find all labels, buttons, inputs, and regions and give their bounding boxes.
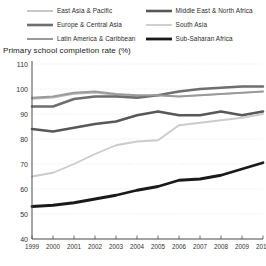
legend-label: East Asia & Pacific [57,8,112,14]
x-axis-tick-label: 2009 [235,243,249,250]
line-swatch-icon [27,35,53,43]
legend-label: South Asia [176,22,208,28]
x-axis-tick-label: 2001 [67,243,81,250]
x-axis-tick-label: 1999 [25,243,39,250]
legend-item-europe-central-asia[interactable]: Europe & Central Asia [0,18,136,32]
x-axis-tick-labels: 1999200020012002200320042005200620072008… [0,58,266,258]
legend-label: Europe & Central Asia [57,22,122,28]
legend-label: Latin America & Caribbean [57,36,136,42]
line-swatch-icon [27,7,53,15]
x-axis-tick-label: 2004 [130,243,144,250]
legend-item-middle-east-north-africa[interactable]: Middle East & North Africa [136,4,266,18]
x-axis-tick-label: 2007 [193,243,207,250]
x-axis-tick-label: 2010 [256,243,266,250]
legend-label: Sub-Saharan Africa [176,36,233,42]
line-swatch-icon [146,35,172,43]
legend-item-latin-america-caribbean[interactable]: Latin America & Caribbean [0,32,136,46]
x-axis-tick-label: 2002 [88,243,102,250]
line-chart: East Asia & Pacific Middle East & North … [0,0,266,266]
legend-item-south-asia[interactable]: South Asia [136,18,266,32]
line-swatch-icon [146,21,172,29]
x-axis-tick-label: 2006 [172,243,186,250]
legend-label: Middle East & North Africa [176,8,253,14]
x-axis-tick-label: 2005 [151,243,165,250]
legend-item-east-asia-pacific[interactable]: East Asia & Pacific [0,4,136,18]
x-axis-tick-label: 2000 [46,243,60,250]
legend-item-sub-saharan-africa[interactable]: Sub-Saharan Africa [136,32,266,46]
line-swatch-icon [146,7,172,15]
chart-legend: East Asia & Pacific Middle East & North … [0,4,266,46]
plot-area: 405060708090100110 199920002001200220032… [0,58,266,258]
x-axis-tick-label: 2003 [109,243,123,250]
line-swatch-icon [27,21,53,29]
x-axis-tick-label: 2008 [214,243,228,250]
chart-axis-title: Primary school completion rate (%) [3,46,131,55]
